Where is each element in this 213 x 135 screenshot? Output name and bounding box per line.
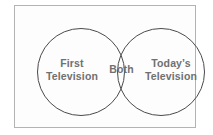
venn-label-left-line2: Television — [39, 70, 105, 83]
venn-label-intersection: Both — [107, 63, 136, 76]
venn-label-left-set: First Television — [39, 57, 105, 83]
venn-label-right-set: Today’s Television — [137, 57, 205, 83]
venn-label-intersection-text: Both — [107, 63, 136, 76]
venn-label-right-line1: Today’s — [137, 57, 205, 70]
venn-label-left-line1: First — [39, 57, 105, 70]
diagram-frame: First Television Both Today’s Television — [14, 5, 196, 128]
venn-label-right-line2: Television — [137, 70, 205, 83]
venn-diagram: First Television Both Today’s Television — [0, 0, 213, 135]
